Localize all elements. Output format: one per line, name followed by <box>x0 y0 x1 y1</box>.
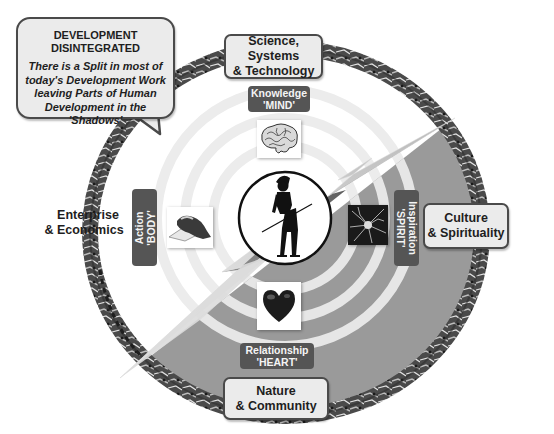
label-knowledge-mind: Knowledge 'MIND' <box>248 86 310 112</box>
domain-label-line: & Community <box>235 399 316 414</box>
callout-body-line: leaving Parts of Human <box>18 87 173 101</box>
callout-tail-join <box>132 113 156 117</box>
inner-label-line: 'MIND' <box>263 99 295 111</box>
callout-body: There is a Split in most of today's Deve… <box>18 60 173 128</box>
callout-title-line1: DEVELOPMENT <box>54 29 138 42</box>
inner-label-line: 'BODY' <box>145 210 157 245</box>
domain-nature-community: Nature & Community <box>223 377 329 420</box>
inner-label-line: 'SPIRIT' <box>395 201 407 255</box>
brain-icon <box>257 120 301 158</box>
domain-label-line: Culture <box>444 211 488 226</box>
neuron-icon <box>348 205 388 245</box>
callout-body-line: today's Development Work <box>18 74 173 88</box>
domain-label-line: Nature <box>256 384 296 399</box>
callout-bubble: DEVELOPMENT DISINTEGRATED There is a Spl… <box>16 17 175 119</box>
label-action-body: Action 'BODY' <box>132 189 157 266</box>
domain-enterprise-economics: Enterprise & Economics <box>40 208 128 238</box>
domain-culture-spirituality: Culture & Spirituality <box>423 203 509 249</box>
domain-label-line: & Spirituality <box>427 226 504 241</box>
inner-label-line: Knowledge <box>251 87 307 99</box>
domain-label-line: & Economics <box>40 223 128 238</box>
domain-label-line: & Technology <box>233 64 315 79</box>
inner-label-line: 'HEART' <box>256 356 297 368</box>
heart-icon <box>257 282 301 330</box>
inner-label-line: Action <box>133 210 145 245</box>
label-inspiration-spirit: Inspiration 'SPIRIT' <box>394 190 419 266</box>
inner-label-line: Relationship <box>245 344 308 356</box>
label-relationship-heart: Relationship 'HEART' <box>240 343 314 369</box>
domain-label-line: Science, Systems <box>226 34 321 64</box>
inner-label-line: Inspiration <box>407 201 419 255</box>
callout-title-line2: DISINTEGRATED <box>51 42 140 55</box>
domain-label-line: Enterprise <box>40 208 128 223</box>
domain-science-systems-technology: Science, Systems & Technology <box>224 34 323 79</box>
clasped-hands-icon <box>167 207 213 248</box>
callout-body-line: There is a Split in most of <box>18 60 173 74</box>
